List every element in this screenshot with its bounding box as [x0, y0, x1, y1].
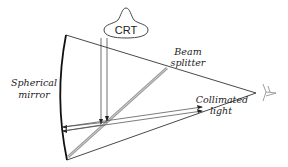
- beam-splitter-label-line2: splitter: [171, 57, 207, 68]
- mirror-label-line2: mirror: [18, 89, 51, 100]
- beam-splitter: [68, 68, 167, 157]
- mirror-label-line1: Spherical: [11, 77, 57, 88]
- collimated-label-line2: light: [210, 105, 232, 116]
- spherical-mirror: [60, 35, 67, 160]
- crt-label: CRT: [115, 24, 138, 36]
- crt-shape: CRT: [104, 8, 148, 38]
- collimated-rays: [63, 105, 203, 131]
- upper-fov-line: [66, 35, 256, 93]
- beam-splitter-label-line1: Beam: [173, 46, 201, 57]
- crt-rays: [99, 38, 109, 125]
- collimated-label-line1: Collimated: [196, 94, 248, 105]
- collimated-display-diagram: CRT Beam splitter Spherical mirror Colli…: [0, 0, 288, 167]
- eye-icon: [263, 84, 276, 101]
